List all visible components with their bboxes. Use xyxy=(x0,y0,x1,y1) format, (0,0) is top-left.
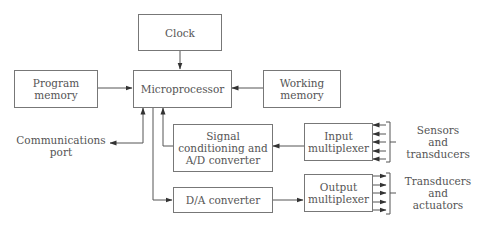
signal-conditioning-block: Signal conditioning and A/D converter xyxy=(173,124,273,172)
sensors-label: Sensors and transducers xyxy=(398,124,478,160)
microprocessor-block: Microprocessor xyxy=(133,70,232,108)
input-multiplexer-block: Input multiplexer xyxy=(304,123,373,161)
actuators-label: Transducers and actuators xyxy=(398,175,478,211)
communications-port-label: Communications port xyxy=(14,134,108,158)
program-memory-block: Program memory xyxy=(14,70,98,108)
output-multiplexer-block: Output multiplexer xyxy=(304,174,373,212)
working-memory-block: Working memory xyxy=(263,70,341,108)
da-converter-block: D/A converter xyxy=(173,187,273,213)
clock-block: Clock xyxy=(138,14,222,51)
